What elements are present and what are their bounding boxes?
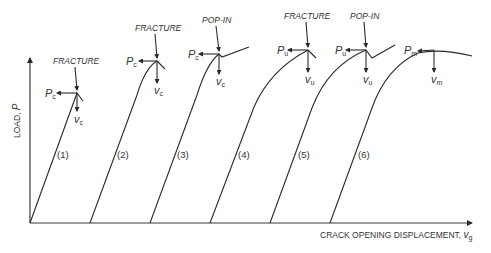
curve-2: (2) FRACTURE Pc vc [90, 23, 182, 223]
svg-text:(4): (4) [238, 149, 250, 160]
svg-text:(1): (1) [57, 149, 69, 160]
svg-text:POP-IN: POP-IN [350, 11, 380, 21]
svg-text:FRACTURE: FRACTURE [135, 23, 182, 33]
svg-text:(5): (5) [298, 149, 310, 160]
vc-label: vc [74, 113, 84, 126]
curve-1: (1) FRACTURE Pc vc [30, 56, 100, 223]
svg-text:(3): (3) [177, 149, 189, 160]
curve-3: (3) POP-IN Pc vc [150, 15, 249, 223]
pc-label: Pc [45, 87, 56, 100]
load-displacement-diagram: LOAD, P CRACK OPENING DISPLACEMENT, vg (… [0, 0, 491, 253]
pu-label: Pu [277, 44, 288, 57]
pm-label: Pm [404, 44, 417, 57]
svg-text:FRACTURE: FRACTURE [284, 11, 331, 21]
svg-text:CRACK OPENING DISPLACEMENT, vg: CRACK OPENING DISPLACEMENT, vg [320, 229, 473, 242]
curve-6: (6) Pm vm [330, 44, 472, 223]
pc-label: Pc [126, 55, 137, 68]
svg-text:LOAD, P: LOAD, P [11, 103, 22, 138]
vm-label: vm [431, 73, 443, 86]
pu-label: Pu [335, 44, 346, 57]
curve-4-top: FRACTURE Pu vu [277, 11, 331, 86]
svg-text:FRACTURE: FRACTURE [53, 56, 100, 66]
vu-label: vu [363, 73, 373, 86]
curve-5-top: POP-IN Pu vu [312, 11, 395, 108]
axes [30, 58, 472, 223]
y-axis-label: LOAD, P [11, 103, 22, 138]
x-axis-label: CRACK OPENING DISPLACEMENT, vg [320, 229, 473, 242]
curve-4: (4) [210, 50, 308, 223]
vu-label: vu [305, 73, 315, 86]
vc-label: vc [216, 75, 226, 88]
svg-text:(6): (6) [358, 149, 370, 160]
pc-label: Pc [188, 48, 199, 61]
curve-5: (5) [270, 108, 312, 223]
vc-label: vc [154, 84, 164, 97]
svg-text:(2): (2) [117, 149, 129, 160]
svg-text:POP-IN: POP-IN [202, 15, 232, 25]
